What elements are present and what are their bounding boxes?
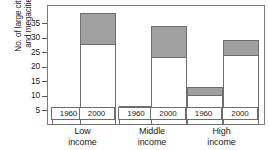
group-label-2: High income xyxy=(177,126,267,147)
bar-segment-megacities xyxy=(224,41,258,56)
y-tick-label: 15 xyxy=(14,77,40,85)
year-label-1960-4: 1960 xyxy=(186,107,222,120)
bar-segment-megacities xyxy=(81,14,115,45)
y-tick-label: 25 xyxy=(14,48,40,56)
y-tick-label: 20 xyxy=(14,62,40,70)
y-tick-label: 10 xyxy=(14,91,40,99)
year-label-2000-3: 2000 xyxy=(150,107,186,120)
y-tick-label: 5 xyxy=(14,106,40,114)
bar-segment-megacities xyxy=(152,27,186,57)
year-label-2000-5: 2000 xyxy=(222,107,258,120)
y-tick-label: 35 xyxy=(14,19,40,27)
chart-figure: No. of large cities and megacities 35302… xyxy=(0,0,269,150)
year-label-1960-2: 1960 xyxy=(118,107,154,120)
bar-segment-megacities xyxy=(188,88,222,96)
y-tick-label: 30 xyxy=(14,33,40,41)
year-label-2000-1: 2000 xyxy=(79,107,115,120)
